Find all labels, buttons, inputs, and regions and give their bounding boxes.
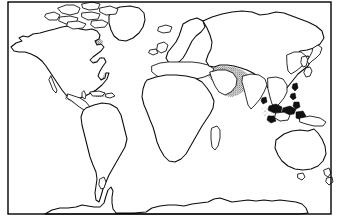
world-distribution-map: World distribution map cylindrical (Mill… <box>0 0 341 224</box>
map-canvas <box>0 0 341 224</box>
